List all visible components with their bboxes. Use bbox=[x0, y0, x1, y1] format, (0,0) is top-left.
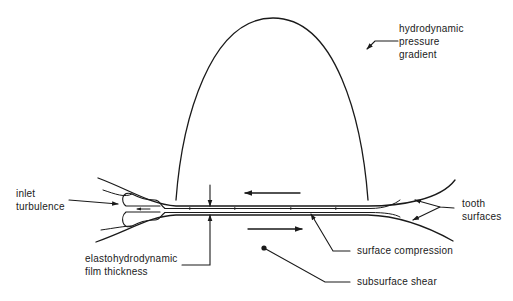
surface-compression-leader bbox=[311, 214, 350, 251]
inlet-leader bbox=[69, 200, 118, 204]
pressure-leader bbox=[367, 41, 398, 49]
pressure-label-line-3: gradient bbox=[399, 48, 464, 61]
tooth-label-line-1: tooth bbox=[462, 197, 501, 210]
tooth-leader-upper bbox=[415, 200, 454, 208]
subsurface-shear-label: subsurface shear bbox=[357, 275, 437, 288]
surface-compression-label: surface compression bbox=[357, 244, 453, 257]
pressure-curve bbox=[176, 18, 368, 200]
tooth-label-line-2: surfaces bbox=[462, 210, 501, 223]
pressure-gradient-label: hydrodynamic pressure gradient bbox=[399, 22, 464, 61]
tooth-surfaces-label: tooth surfaces bbox=[462, 197, 501, 223]
pressure-label-line-1: hydrodynamic bbox=[399, 22, 464, 35]
inlet-turbulence-label: inlet turbulence bbox=[16, 187, 65, 213]
film-thickness-bottom-arrow bbox=[182, 215, 210, 265]
inlet-label-line-2: turbulence bbox=[16, 200, 65, 213]
film-label-line-2: film thickness bbox=[85, 265, 178, 278]
subsurface-shear-point bbox=[261, 245, 266, 250]
inlet-label-line-1: inlet bbox=[16, 187, 65, 200]
pressure-label-line-2: pressure bbox=[399, 35, 464, 48]
tooth-leader-lower bbox=[413, 207, 440, 220]
upper-tooth-surface bbox=[98, 178, 455, 206]
subsurface-shear-leader bbox=[264, 248, 350, 282]
inlet-turbulence-loop-lower bbox=[123, 212, 165, 227]
film-label-line-1: elastohydrodynamic bbox=[85, 252, 178, 265]
oil-film-upper-flow bbox=[165, 200, 400, 209]
film-thickness-label: elastohydrodynamic film thickness bbox=[85, 252, 178, 278]
